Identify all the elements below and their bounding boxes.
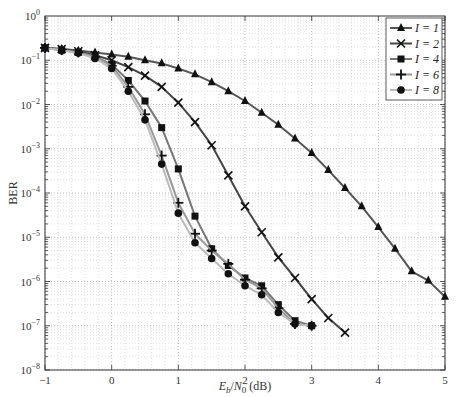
legend: I = 1I = 2I = 4I = 6I = 8 [386, 18, 442, 100]
circle-marker [225, 270, 233, 278]
grid-lines [45, 16, 445, 370]
circle-marker [275, 309, 283, 317]
y-tick-label: 10−1 [20, 52, 40, 66]
circle-marker [141, 116, 149, 124]
square-marker [158, 124, 165, 131]
circle-marker [208, 255, 216, 263]
legend-label: I = 6 [414, 68, 439, 82]
square-marker [398, 56, 405, 63]
y-tick-label: 10−2 [20, 97, 40, 111]
x-tick-label: 4 [376, 374, 382, 386]
ber-chart: −101234510010−110−210−310−410−510−610−71… [0, 0, 460, 397]
circle-marker [258, 291, 266, 299]
circle-marker [308, 322, 316, 330]
square-marker [142, 97, 149, 104]
circle-marker [241, 282, 249, 290]
series-line [45, 48, 345, 333]
y-tick-label: 10−3 [20, 141, 40, 155]
y-tick-label: 10−5 [20, 229, 40, 243]
x-tick-label: 3 [309, 374, 315, 386]
square-marker [175, 165, 182, 172]
square-marker [192, 213, 199, 220]
circle-marker [41, 44, 49, 52]
series-I-2 [41, 44, 349, 337]
legend-label: I = 4 [414, 52, 439, 66]
circle-marker [397, 86, 405, 94]
x-tick-label: 5 [442, 374, 448, 386]
legend-label: I = 8 [414, 83, 439, 97]
circle-marker [58, 47, 66, 55]
circle-marker [108, 65, 116, 73]
legend-label: I = 2 [414, 37, 439, 51]
series-line [45, 48, 312, 326]
x-tick-label: 1 [176, 374, 182, 386]
y-tick-label: 100 [25, 8, 40, 22]
circle-marker [125, 87, 133, 95]
circle-marker [191, 239, 199, 247]
series-line [45, 48, 312, 326]
circle-marker [75, 49, 83, 57]
y-tick-label: 10−6 [20, 274, 40, 288]
legend-label: I = 1 [414, 21, 439, 35]
x-tick-label: 0 [109, 374, 115, 386]
series-I-6 [40, 43, 317, 331]
circle-marker [158, 160, 166, 168]
y-tick-label: 10−7 [20, 318, 40, 332]
y-axis-label: BER [6, 181, 20, 204]
series-line [45, 48, 312, 326]
circle-marker [291, 320, 299, 328]
circle-marker [175, 209, 183, 217]
y-tick-label: 10−4 [20, 185, 40, 199]
y-tick-label: 10−8 [20, 362, 40, 376]
x-tick-label: −1 [39, 374, 51, 386]
circle-marker [91, 55, 99, 63]
